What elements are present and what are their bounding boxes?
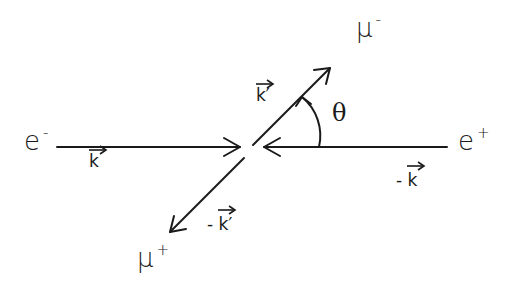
electron-momentum-label: k [89,153,99,170]
angle-arc [296,97,320,147]
positron-momentum-label: - k [396,172,417,189]
vector-arrow-icon [406,161,426,171]
vector-arrow-icon [88,145,108,155]
positron-momentum-arrow [264,138,447,156]
vector-arrow-icon [255,79,275,89]
muon-minus-momentum-label: k′ [256,87,270,104]
electron-momentum-arrow [57,138,240,156]
angle-theta-label: θ [332,101,346,125]
muon-minus-label: μ- [356,15,381,41]
muon-plus-momentum-label: - k′ [207,216,232,233]
scattering-diagram [0,0,508,287]
electron-label: e- [24,128,48,154]
muon-plus-label: μ+ [137,245,169,271]
positron-label: e+ [458,128,490,154]
vector-arrow-icon [217,205,237,215]
